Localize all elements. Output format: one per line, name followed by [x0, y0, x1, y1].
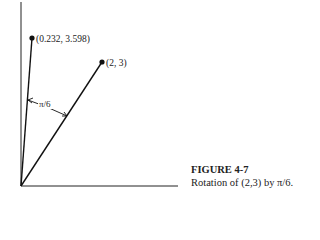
rotated-point [29, 35, 34, 40]
figure-caption-text: Rotation of (2,3) by π/6. [191, 176, 293, 189]
original-point [99, 59, 104, 64]
figure-label: FIGURE 4-7 [191, 163, 293, 176]
rotated-vector [21, 38, 32, 186]
original-vector [21, 62, 102, 186]
angle-label: π/6 [39, 99, 51, 109]
figure-caption: FIGURE 4-7 Rotation of (2,3) by π/6. [191, 163, 293, 189]
rotated-point-label: (0.232, 3.598) [36, 34, 90, 45]
original-point-label: (2, 3) [106, 58, 127, 69]
